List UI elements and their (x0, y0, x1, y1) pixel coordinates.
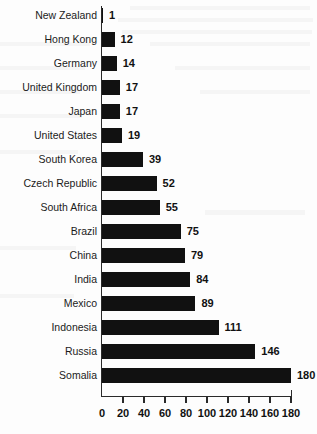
x-axis-tick (248, 397, 249, 403)
bar (102, 56, 117, 71)
bar-value-label: 19 (128, 128, 140, 143)
bar (102, 176, 157, 191)
x-axis-start-cap (101, 390, 102, 397)
bar (102, 248, 185, 263)
bar-value-label: 17 (126, 104, 138, 119)
category-label: United Kingdom (22, 80, 97, 95)
x-axis-tick-label: 40 (138, 407, 150, 419)
category-label: Czech Republic (23, 176, 97, 191)
bar-value-label: 84 (196, 272, 208, 287)
bar-value-label: 52 (163, 176, 175, 191)
bar (102, 224, 181, 239)
x-axis-tick (143, 397, 144, 403)
category-label: Brazil (71, 224, 97, 239)
category-label: Mexico (64, 296, 97, 311)
bar-row: Japan17 (0, 104, 317, 128)
bar-value-label: 17 (126, 80, 138, 95)
bar-row: Russia146 (0, 344, 317, 368)
x-axis-tick-label: 120 (219, 407, 237, 419)
bar-row: Indonesia111 (0, 320, 317, 344)
bar (102, 344, 255, 359)
category-label: Somalia (59, 368, 97, 383)
bar-row: China79 (0, 248, 317, 272)
bar-row: India84 (0, 272, 317, 296)
bar-row: Somalia180 (0, 368, 317, 392)
bar-value-label: 14 (123, 56, 135, 71)
bar-value-label: 146 (261, 344, 279, 359)
category-label: Russia (65, 344, 97, 359)
category-label: India (74, 272, 97, 287)
bar-row: New Zealand1 (0, 8, 317, 32)
bar-value-label: 79 (191, 248, 203, 263)
category-label: Japan (68, 104, 97, 119)
bar-chart: New Zealand1Hong Kong12Germany14United K… (0, 0, 317, 434)
x-axis-tick-label: 180 (282, 407, 300, 419)
category-label: Hong Kong (44, 32, 97, 47)
bar-value-label: 180 (297, 368, 315, 383)
x-axis-tick (290, 397, 291, 403)
bar-value-label: 39 (149, 152, 161, 167)
bar-row: Hong Kong12 (0, 32, 317, 56)
bar (102, 272, 190, 287)
bar (102, 200, 160, 215)
bar-value-label: 89 (201, 296, 213, 311)
bar-row: Mexico89 (0, 296, 317, 320)
bar-row: South Africa55 (0, 200, 317, 224)
category-label: Germany (54, 56, 97, 71)
bar-row: United Kingdom17 (0, 80, 317, 104)
bar-value-label: 1 (109, 8, 115, 23)
x-axis-tick-label: 60 (159, 407, 171, 419)
x-axis-tick (164, 397, 165, 403)
category-label: Indonesia (51, 320, 97, 335)
x-axis-tick-label: 100 (198, 407, 216, 419)
x-axis-tick (269, 397, 270, 403)
category-label: China (70, 248, 97, 263)
bar-row: Brazil75 (0, 224, 317, 248)
bar (102, 128, 122, 143)
bar-row: South Korea39 (0, 152, 317, 176)
x-axis-tick (206, 397, 207, 403)
x-axis-end-cap (291, 390, 292, 397)
category-label: South Korea (39, 152, 97, 167)
bar-row: United States19 (0, 128, 317, 152)
x-axis-tick-label: 80 (180, 407, 192, 419)
x-axis-tick (185, 397, 186, 403)
bar (102, 320, 219, 335)
category-label: New Zealand (35, 8, 97, 23)
y-axis-line (101, 6, 102, 392)
x-axis-tick (227, 397, 228, 403)
bar-value-label: 111 (225, 320, 242, 335)
category-label: United States (34, 128, 97, 143)
bar-row: Germany14 (0, 56, 317, 80)
bar-value-label: 55 (166, 200, 178, 215)
x-axis-tick-label: 160 (261, 407, 279, 419)
bar (102, 368, 291, 383)
bar-row: Czech Republic52 (0, 176, 317, 200)
bar (102, 104, 120, 119)
category-label: South Africa (40, 200, 97, 215)
bar-value-label: 75 (187, 224, 199, 239)
x-axis-tick (122, 397, 123, 403)
bar-value-label: 12 (121, 32, 133, 47)
bar (102, 80, 120, 95)
bar (102, 296, 195, 311)
x-axis-line (101, 396, 292, 397)
bar (102, 152, 143, 167)
x-axis-tick-label: 0 (99, 407, 105, 419)
plot-area: New Zealand1Hong Kong12Germany14United K… (0, 0, 317, 434)
bar (102, 32, 115, 47)
x-axis-tick-label: 20 (117, 407, 129, 419)
x-axis-tick-label: 140 (240, 407, 258, 419)
